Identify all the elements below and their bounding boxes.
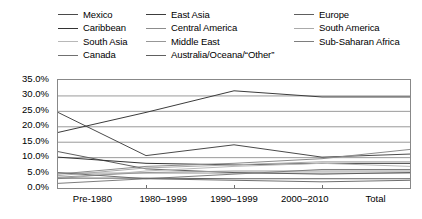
legend-label: Caribbean (83, 23, 126, 33)
y-axis-tick-label: 30.0% (22, 90, 49, 100)
legend-label: Europe (319, 10, 349, 20)
legend-item-south-america[interactable]: South America (294, 23, 414, 33)
y-axis-tick-label: 10.0% (22, 151, 49, 161)
legend-swatch-icon (294, 28, 314, 29)
legend-label: Central America (171, 23, 237, 33)
legend-item-canada[interactable]: Canada (58, 50, 146, 60)
legend-item-caribbean[interactable]: Caribbean (58, 23, 146, 33)
legend-swatch-icon (146, 41, 166, 42)
legend-swatch-icon (58, 41, 78, 42)
legend-label: Mexico (83, 10, 113, 20)
legend-item-south-asia[interactable]: South Asia (58, 37, 146, 47)
legend-swatch-icon (58, 28, 78, 29)
x-axis-labels: Pre-19801980–19991990–19992000–2010Total (57, 193, 411, 209)
chart-figure: MexicoEast AsiaEuropeCaribbeanCentral Am… (0, 0, 422, 219)
legend-item-europe[interactable]: Europe (294, 10, 414, 20)
y-axis-tick-label: 5.0% (27, 167, 49, 177)
legend-row: CaribbeanCentral AmericaSouth America (58, 22, 414, 36)
legend-item-central-america[interactable]: Central America (146, 23, 294, 33)
legend-swatch-icon (294, 14, 314, 15)
chart-legend: MexicoEast AsiaEuropeCaribbeanCentral Am… (58, 8, 414, 64)
legend-item-australia-oceana-other[interactable]: Australia/Oceana/“Other” (146, 50, 294, 60)
y-axis-tick-label: 25.0% (22, 105, 49, 115)
legend-swatch-icon (146, 14, 166, 15)
legend-label: Australia/Oceana/“Other” (171, 50, 274, 60)
x-axis-tick-label: Total (340, 193, 411, 209)
x-axis-tick-label: Pre-1980 (57, 193, 128, 209)
x-axis-tick-label: 2000–2010 (269, 193, 340, 209)
x-axis-tick-label: 1990–1999 (199, 193, 270, 209)
legend-label: Middle East (171, 37, 220, 47)
legend-swatch-icon (146, 55, 166, 56)
legend-row: CanadaAustralia/Oceana/“Other” (58, 49, 414, 63)
legend-swatch-icon (294, 41, 314, 42)
y-axis-labels: 0.0%5.0%10.0%15.0%20.0%25.0%30.0%35.0% (0, 70, 52, 192)
y-axis-tick-label: 35.0% (22, 74, 49, 84)
legend-item-middle-east[interactable]: Middle East (146, 37, 294, 47)
plot-area (57, 79, 411, 189)
legend-item-mexico[interactable]: Mexico (58, 10, 146, 20)
plot-area-wrapper: 0.0%5.0%10.0%15.0%20.0%25.0%30.0%35.0% (0, 70, 422, 192)
legend-label: South America (319, 23, 379, 33)
legend-label: Sub-Saharan Africa (319, 37, 400, 47)
series-line-australia-oceana-other (58, 178, 410, 179)
legend-swatch-icon (146, 28, 166, 29)
legend-row: MexicoEast AsiaEurope (58, 8, 414, 22)
legend-label: East Asia (171, 10, 210, 20)
legend-item-sub-saharan-africa[interactable]: Sub-Saharan Africa (294, 37, 414, 47)
series-line-mexico (58, 112, 410, 157)
y-axis-tick-label: 15.0% (22, 136, 49, 146)
y-axis-tick-label: 0.0% (27, 182, 49, 192)
legend-label: Canada (83, 50, 116, 60)
legend-label: South Asia (83, 37, 127, 47)
legend-row: South AsiaMiddle EastSub-Saharan Africa (58, 35, 414, 49)
y-axis-tick-label: 20.0% (22, 121, 49, 131)
legend-item-east-asia[interactable]: East Asia (146, 10, 294, 20)
x-axis-tick-label: 1980–1999 (128, 193, 199, 209)
legend-swatch-icon (58, 55, 78, 56)
legend-swatch-icon (58, 14, 78, 15)
